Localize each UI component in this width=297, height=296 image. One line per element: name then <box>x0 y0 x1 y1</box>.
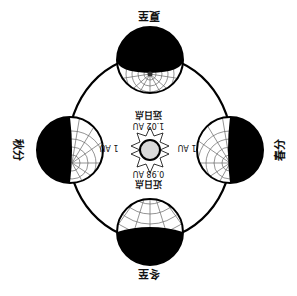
earth-spring-equinox <box>192 115 263 195</box>
label-aphelion-name: 远日点 <box>135 110 162 121</box>
label-perihelion-value: 0.98 AU <box>133 169 165 178</box>
label-perihelion-name: 近日点 <box>135 179 162 190</box>
sun-icon <box>131 127 169 173</box>
label-au-right: 1 AU <box>177 143 196 152</box>
earth-summer-solstice <box>112 27 188 110</box>
label-au-left: 1 AU <box>99 143 118 152</box>
earth-autumn-equinox <box>37 115 110 195</box>
label-winter-solstice: 冬至 <box>138 267 160 281</box>
label-aphelion-value: 1.02 AU <box>133 121 165 130</box>
label-autumn-equinox: 秋分 <box>11 139 25 161</box>
label-spring-equinox: 春分 <box>273 139 287 161</box>
label-summer-solstice: 夏至 <box>138 9 160 22</box>
earth-orbit-diagram: 夏至 冬至 远日点 1.02 AU 0.98 AU 近日点 1 AU 1 AU … <box>0 0 297 296</box>
